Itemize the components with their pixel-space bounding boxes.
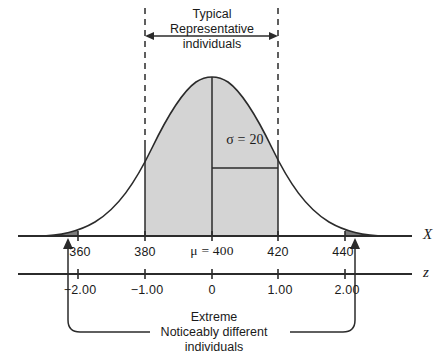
z-tick-label-plus-1: 1.00 — [267, 283, 292, 297]
z-tick-label-zero: 0 — [208, 283, 215, 297]
typical-line-1: Typical — [122, 7, 302, 22]
extreme-line-2: Noticeably different — [104, 325, 324, 340]
z-tick-label-plus-2: 2.00 — [334, 283, 359, 297]
x-tick-label-380: 380 — [134, 245, 155, 259]
typical-annotation: Typical Representative individuals — [122, 7, 302, 52]
distribution-plot-svg — [0, 0, 444, 357]
x-tick-label-mean: μ = 400 — [190, 244, 233, 258]
x-tick-label-420: 420 — [267, 245, 288, 259]
typical-line-3: individuals — [122, 37, 302, 52]
typical-line-2: Representative — [122, 22, 302, 37]
extreme-line-3: individuals — [104, 340, 324, 355]
x-tick-label-360: 360 — [69, 245, 90, 259]
z-tick-label-minus-2: −2.00 — [64, 283, 97, 297]
extreme-line-1: Extreme — [104, 310, 324, 325]
normal-distribution-figure: Typical Representative individuals σ = 2… — [0, 0, 444, 357]
x-tick-label-440: 440 — [332, 245, 353, 259]
z-axis-name: z — [423, 264, 429, 281]
x-axis-name: X — [423, 226, 432, 243]
sigma-label: σ = 20 — [226, 133, 264, 147]
extreme-annotation: Extreme Noticeably different individuals — [104, 310, 324, 355]
z-tick-label-minus-1: −1.00 — [131, 283, 164, 297]
